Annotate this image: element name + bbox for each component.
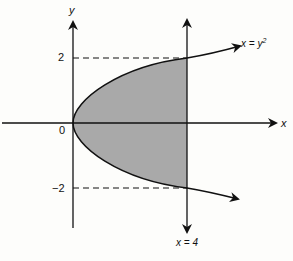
x-axis-label: x	[281, 117, 287, 129]
origin-label: 0	[59, 124, 65, 136]
parabola-region-diagram: y x 0 2 −2 x = y2 x = 4	[0, 0, 293, 261]
curve-label: x = y2	[241, 37, 266, 49]
tick-label-neg-2: −2	[52, 182, 65, 194]
y-axis-label: y	[69, 4, 75, 16]
tick-label-2: 2	[58, 51, 64, 63]
line-x-4-label: x = 4	[176, 237, 198, 248]
